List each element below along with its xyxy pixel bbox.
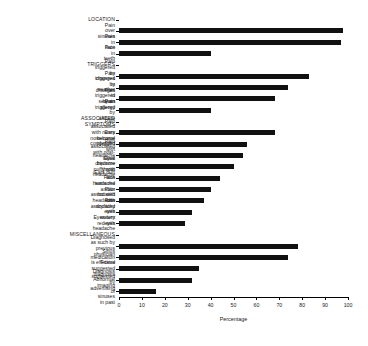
x-axis-tick-label: 50 [231,302,237,308]
bar-row: Pain over sinuses [119,25,348,36]
bar [119,96,275,101]
bar [119,187,211,192]
bar-row: Diagnosis suggested by advertising [119,274,348,285]
bar-row: Diagnosed as such by previous physician [119,240,348,251]
bar [119,153,243,158]
x-axis-tick [119,297,120,300]
x-axis-tick-label: 90 [322,302,328,308]
bar [119,198,204,203]
x-axis-tick-label: 80 [299,302,305,308]
x-axis-tick [188,297,189,300]
bar-row: Pain triggered by changes in weather [119,71,348,82]
bar-row: Pain in face [119,37,348,48]
category-group-header: MISCELLANEOUS [119,229,348,240]
bar [119,142,247,147]
x-axis-tick-label: 30 [185,302,191,308]
bar-row: Eyes become puffy with headache [119,161,348,172]
bar [119,244,298,249]
x-axis-tick-label: 0 [118,302,121,308]
bar-row: Pain triggered by an allergy [119,93,348,104]
bar-row: Pain triggered by changes in season [119,82,348,93]
x-axis-tick-label: 20 [162,302,168,308]
bar [119,51,211,56]
category-group-header: LOCATION [119,14,348,25]
bar [119,255,288,260]
y-axis-tick [116,122,119,123]
bar-row: Friend suggested diagnosis [119,263,348,274]
x-axis-tick [165,297,166,300]
bar-row: Face turns red and/or hot with headache [119,184,348,195]
category-label: Eyes turn red with headache [93,215,115,232]
y-axis-tick [116,20,119,21]
bar [119,278,192,283]
sinus-symptom-bar-chart: LOCATIONPain over sinusesPain in facePai… [0,0,368,346]
x-axis-tick-label: 70 [276,302,282,308]
bar [119,266,199,271]
bar-row: Pain associated with runny nose/nasal co… [119,127,348,138]
bar [119,108,211,113]
x-axis-tick-label: 100 [344,302,353,308]
x-axis-tick [348,297,349,300]
x-axis-tick-label: 60 [254,302,260,308]
plot-area: LOCATIONPain over sinusesPain in facePai… [119,14,348,297]
bar-row: Pain associated with dry/itchy eyes [119,195,348,206]
bar [119,210,192,215]
x-axis-title: Percentage [119,316,348,322]
x-axis-tick [234,297,235,300]
bar [119,40,341,45]
x-axis-tick [256,297,257,300]
y-axis-tick [116,65,119,66]
bar-row: Eyes turn red with headache [119,218,348,229]
bar [119,130,275,135]
x-axis-tick-label: 10 [139,302,145,308]
x-axis-tick [279,297,280,300]
bar [119,289,156,294]
y-axis-tick [116,235,119,236]
bar-row: Sinus medication is effective [119,252,348,263]
category-label: Abnormal imaging of sinuses in past [93,277,115,305]
bar [119,164,234,169]
bar-row: Pain in teeth [119,48,348,59]
x-axis-tick-label: 40 [208,302,214,308]
bar-row: Ears become plugged with headache [119,139,348,150]
bar [119,28,343,33]
bar [119,85,288,90]
bar-row: Pain associated with watery eyes [119,206,348,217]
bar [119,221,185,226]
bar-row: Ears hurt with headache [119,172,348,183]
x-axis-tick [325,297,326,300]
bar-row: Pain triggered by altitude [119,105,348,116]
bar [119,176,220,181]
x-axis-tick [211,297,212,300]
category-group-header: TRIGGERS [119,59,348,70]
bar-row: Abnormal imaging of sinuses in past [119,286,348,297]
x-axis-tick [142,297,143,300]
bar [119,74,309,79]
category-group-header: ASSOCIATED SYMPTOMS [119,116,348,127]
bar-row: Pain associated with post-nasal drip/sor… [119,150,348,161]
x-axis-tick [302,297,303,300]
category-rows: LOCATIONPain over sinusesPain in facePai… [119,14,348,297]
